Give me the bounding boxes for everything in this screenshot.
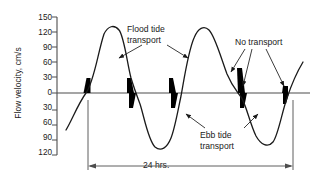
threshold-wedge-8 (282, 86, 288, 93)
dimension-arrow-left (88, 163, 96, 168)
threshold-wedge-6 (237, 68, 245, 93)
leader-flood-left (119, 45, 142, 58)
dimension-arrow-right (285, 163, 293, 168)
flow-velocity-curve (66, 27, 303, 150)
leader-no-transport-3 (266, 49, 284, 86)
threshold-wedge-3 (129, 93, 136, 108)
threshold-wedge-4 (169, 78, 176, 93)
leader-ebb-left (186, 114, 205, 128)
leader-ebb-right (244, 114, 258, 128)
chart-canvas (0, 0, 314, 186)
leader-flood-right (167, 45, 188, 58)
threshold-wedge-5 (171, 93, 178, 108)
axis-group (52, 17, 310, 155)
leader-no-transport-2 (243, 49, 252, 86)
tidal-flow-velocity-chart: Flow velocity, cm/s 150 120 90 60 30 0 3… (0, 0, 314, 186)
y-axis-ticks (52, 17, 57, 155)
threshold-wedge-group (84, 68, 290, 108)
dimension-group (88, 100, 293, 170)
